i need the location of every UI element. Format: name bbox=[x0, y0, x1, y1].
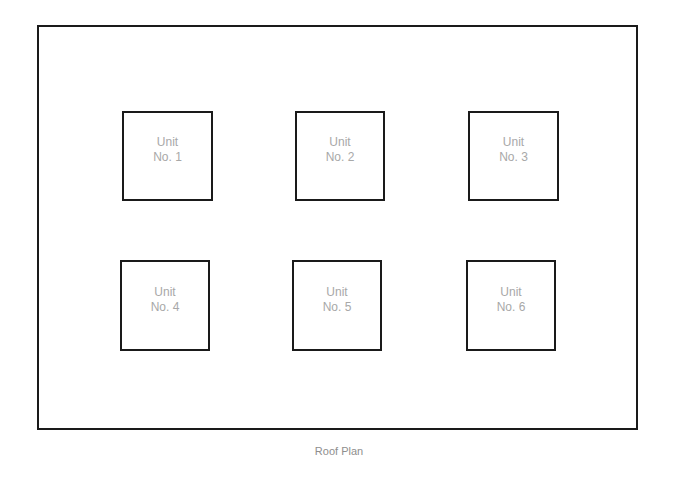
unit-6-box: Unit No. 6 bbox=[466, 260, 556, 351]
unit-6-label: Unit No. 6 bbox=[497, 285, 526, 315]
roof-outline bbox=[37, 25, 638, 430]
unit-3-label: Unit No. 3 bbox=[499, 135, 528, 165]
unit-4-label-line2: No. 4 bbox=[151, 300, 180, 315]
unit-6-label-line1: Unit bbox=[497, 285, 526, 300]
unit-4-box: Unit No. 4 bbox=[120, 260, 210, 351]
unit-2-box: Unit No. 2 bbox=[295, 111, 385, 201]
unit-3-label-line2: No. 3 bbox=[499, 150, 528, 165]
unit-2-label: Unit No. 2 bbox=[326, 135, 355, 165]
unit-1-label-line2: No. 1 bbox=[153, 150, 182, 165]
diagram-caption: Roof Plan bbox=[0, 445, 676, 457]
unit-5-label: Unit No. 5 bbox=[323, 285, 352, 315]
unit-5-label-line2: No. 5 bbox=[323, 300, 352, 315]
unit-4-label-line1: Unit bbox=[151, 285, 180, 300]
unit-3-label-line1: Unit bbox=[499, 135, 528, 150]
unit-2-label-line1: Unit bbox=[326, 135, 355, 150]
unit-3-box: Unit No. 3 bbox=[468, 111, 559, 201]
unit-5-label-line1: Unit bbox=[323, 285, 352, 300]
unit-2-label-line2: No. 2 bbox=[326, 150, 355, 165]
unit-6-label-line2: No. 6 bbox=[497, 300, 526, 315]
unit-5-box: Unit No. 5 bbox=[292, 260, 382, 351]
unit-1-label: Unit No. 1 bbox=[153, 135, 182, 165]
unit-1-box: Unit No. 1 bbox=[122, 111, 213, 201]
unit-4-label: Unit No. 4 bbox=[151, 285, 180, 315]
unit-1-label-line1: Unit bbox=[153, 135, 182, 150]
